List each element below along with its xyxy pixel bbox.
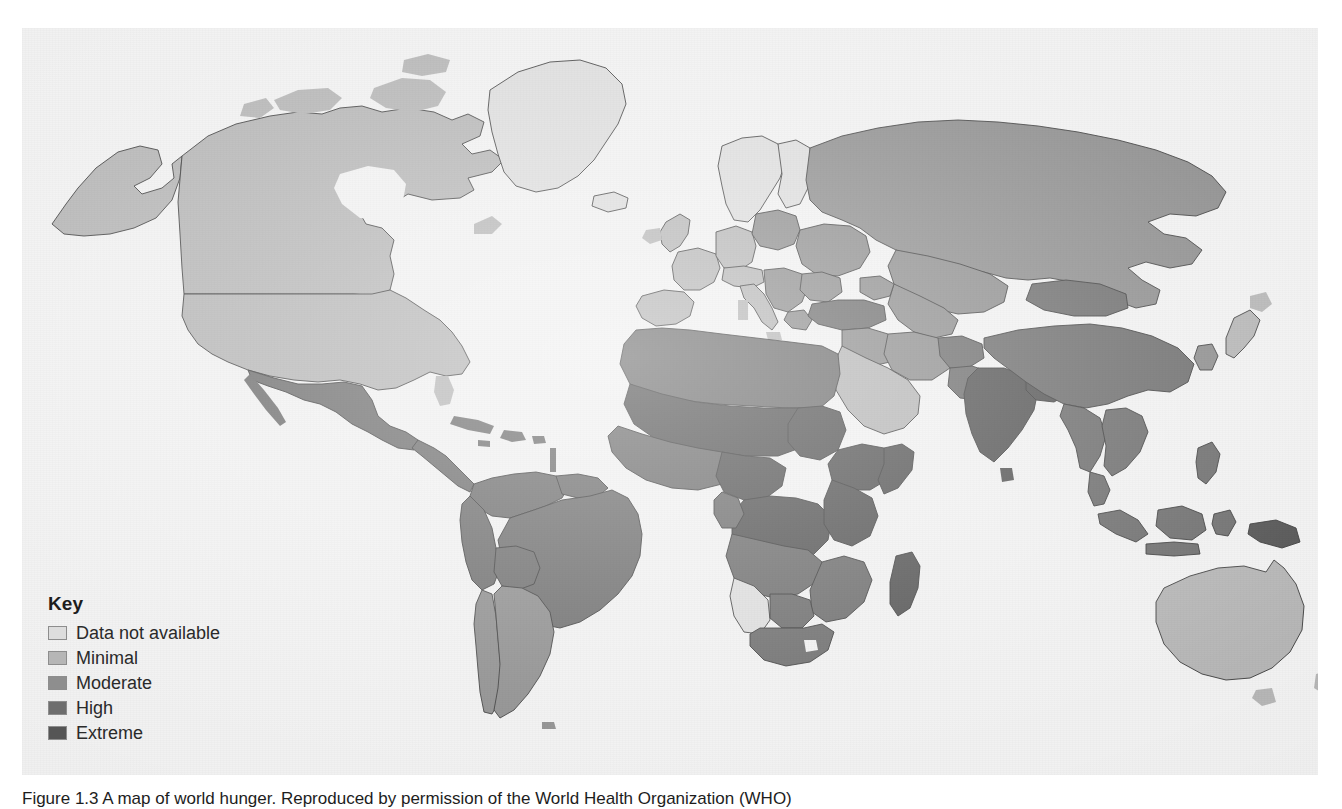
region-norway-sweden-finland <box>718 136 786 222</box>
region-turkey <box>808 300 886 330</box>
region-south-africa <box>750 624 834 666</box>
region-caucasus <box>860 276 894 300</box>
region-lesser-antilles <box>550 448 556 472</box>
region-papua-new-guinea <box>1248 520 1300 548</box>
region-united-states <box>182 290 470 390</box>
world-hunger-map-figure: Key Data not available Minimal Moderate … <box>22 28 1318 775</box>
region-java <box>1146 542 1200 556</box>
region-romania-bulgaria <box>800 272 842 302</box>
region-ireland <box>642 228 662 244</box>
region-hispaniola <box>500 430 526 442</box>
region-jamaica <box>478 440 490 447</box>
region-poland-baltics <box>752 210 800 250</box>
region-sardinia-corsica <box>738 300 748 320</box>
region-canada-arctic-banks <box>240 98 274 118</box>
region-botswana <box>770 594 814 628</box>
legend-swatch-minimal <box>48 651 67 665</box>
region-japan <box>1226 310 1260 358</box>
region-newfoundland <box>474 216 502 234</box>
region-france <box>672 248 720 290</box>
legend-label-data-not-available: Data not available <box>76 624 220 642</box>
legend-swatch-data-not-available <box>48 626 67 640</box>
region-canada-arctic-baffin <box>370 78 446 112</box>
region-ukraine-belarus <box>796 224 870 276</box>
region-new-zealand-south <box>1314 670 1318 694</box>
region-malaysia-peninsula <box>1088 472 1110 506</box>
region-myanmar-thailand <box>1060 404 1106 472</box>
region-sulawesi <box>1212 510 1236 536</box>
figure-caption: Figure 1.3 A map of world hunger. Reprod… <box>22 789 792 809</box>
region-greenland <box>488 60 626 192</box>
region-indochina-vietnam-laos-cambodia <box>1102 408 1148 476</box>
region-uk <box>660 214 690 252</box>
region-sicily <box>766 332 782 340</box>
region-sumatra <box>1098 510 1148 542</box>
region-canada-arctic-victoria <box>274 88 342 114</box>
legend-item-minimal: Minimal <box>48 645 220 670</box>
legend-swatch-extreme <box>48 726 67 740</box>
region-philippines <box>1196 442 1220 484</box>
legend-label-moderate: Moderate <box>76 674 152 692</box>
legend-label-minimal: Minimal <box>76 649 138 667</box>
region-japan-hokkaido <box>1250 292 1272 312</box>
region-florida <box>434 376 454 406</box>
legend-item-high: High <box>48 695 220 720</box>
region-greece <box>784 310 812 330</box>
region-madagascar <box>890 552 920 616</box>
region-cuba <box>450 416 494 434</box>
legend-title: Key <box>48 594 220 613</box>
region-puerto-rico <box>532 436 546 444</box>
region-australia <box>1156 560 1304 680</box>
region-borneo <box>1156 506 1206 540</box>
region-nigeria-cameroon <box>716 452 786 500</box>
region-alaska <box>52 146 182 236</box>
map-legend: Key Data not available Minimal Moderate … <box>48 594 220 745</box>
region-canada-arctic-ellesmere <box>402 54 450 76</box>
region-lesotho <box>804 640 818 652</box>
region-tasmania <box>1252 688 1276 706</box>
region-korea <box>1194 344 1218 370</box>
legend-item-moderate: Moderate <box>48 670 220 695</box>
legend-item-extreme: Extreme <box>48 720 220 745</box>
region-benelux-germany <box>716 226 756 270</box>
region-falklands <box>542 722 556 729</box>
region-sri-lanka <box>1000 468 1014 482</box>
legend-label-high: High <box>76 699 113 717</box>
region-alps-austria <box>722 266 764 288</box>
region-central-america <box>412 440 474 492</box>
legend-swatch-high <box>48 701 67 715</box>
region-argentina-uruguay <box>494 586 554 718</box>
legend-swatch-moderate <box>48 676 67 690</box>
region-iberia <box>636 290 694 326</box>
region-iceland <box>592 192 628 212</box>
legend-label-extreme: Extreme <box>76 724 143 742</box>
legend-item-data-not-available: Data not available <box>48 620 220 645</box>
region-bolivia <box>494 546 540 590</box>
